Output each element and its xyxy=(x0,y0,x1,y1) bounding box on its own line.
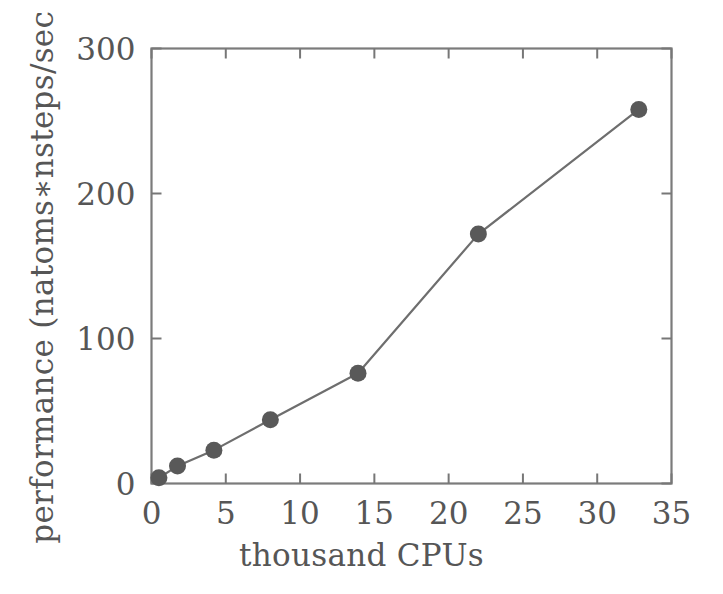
y-tick-label: 300 xyxy=(0,33,136,64)
y-axis-title: performance (natoms∗nsteps/sec ) xyxy=(24,0,60,544)
tick-marks xyxy=(152,49,672,484)
data-point xyxy=(470,226,487,243)
y-tick-label: 0 xyxy=(0,468,136,499)
data-point xyxy=(630,101,647,118)
x-tick-label: 30 xyxy=(577,498,616,529)
x-tick-label: 10 xyxy=(280,498,319,529)
chart-figure: 0100200300 05101520253035 performance (n… xyxy=(0,0,723,594)
x-tick-label: 25 xyxy=(503,498,542,529)
data-point xyxy=(262,411,279,428)
x-tick-label: 0 xyxy=(142,498,162,529)
plot-frame xyxy=(152,49,672,484)
x-tick-label: 15 xyxy=(355,498,394,529)
data-markers xyxy=(150,101,647,486)
data-point xyxy=(150,469,167,486)
x-tick-label: 20 xyxy=(429,498,468,529)
x-tick-label: 5 xyxy=(216,498,236,529)
data-point xyxy=(205,442,222,459)
y-tick-label: 100 xyxy=(0,323,136,354)
data-line xyxy=(159,109,639,477)
y-axis-title-container: performance (natoms∗nsteps/sec ) xyxy=(24,0,60,546)
data-point xyxy=(350,365,367,382)
x-tick-label: 35 xyxy=(652,498,691,529)
x-axis-title: thousand CPUs xyxy=(0,537,723,573)
data-point xyxy=(169,458,186,475)
y-tick-label: 200 xyxy=(0,178,136,209)
